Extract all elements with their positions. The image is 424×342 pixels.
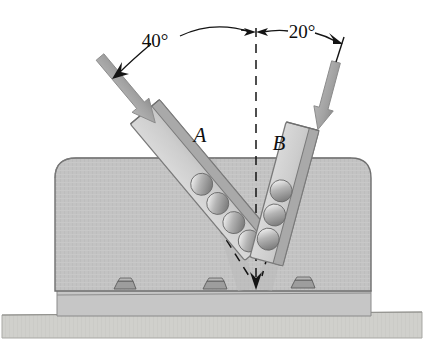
angle-label-right: 20° bbox=[289, 21, 316, 42]
angle-label-left: 40° bbox=[142, 30, 169, 51]
base-plate bbox=[57, 290, 371, 316]
mechanics-figure: 40° 20° A B bbox=[0, 0, 424, 342]
figure-canvas: 40° 20° A B bbox=[0, 0, 424, 342]
chute-a-label: A bbox=[192, 123, 207, 147]
chute-b-label: B bbox=[273, 131, 286, 155]
